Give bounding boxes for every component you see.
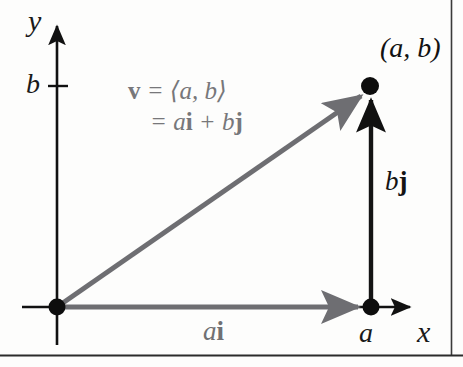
- component-bj-unit-vector: j: [399, 166, 408, 196]
- terminal-point-dot: [361, 77, 379, 95]
- x-axis-label: x: [417, 317, 430, 347]
- component-ai-unit-vector: i: [217, 316, 225, 346]
- unit-vector-j: j: [234, 108, 242, 135]
- component-ai-scalar: a: [203, 316, 217, 346]
- foot-point-dot: [363, 299, 380, 316]
- unit-vector-i: i: [186, 108, 193, 135]
- y-axis: [48, 26, 68, 345]
- terminal-point-label: (a, b): [380, 34, 441, 62]
- vector-expression-line-2: = ai + bj: [128, 109, 243, 134]
- vector-expression-components: = ⟨a, b⟩: [141, 77, 227, 104]
- vector-symbol-v: v: [128, 77, 141, 104]
- scalar-a: a: [173, 108, 186, 135]
- vector-diagram-figure: y x b a (a, b) v = ⟨a, b⟩ = ai + bj ai b…: [0, 0, 463, 367]
- component-bj-label: bj: [385, 168, 408, 195]
- scalar-b: b: [222, 108, 235, 135]
- vector-expression-line-1: v = ⟨a, b⟩: [128, 77, 227, 104]
- y-axis-tick-label-b: b: [26, 70, 40, 98]
- component-ai-label: ai: [203, 318, 224, 345]
- x-axis-tick-label-a: a: [359, 319, 373, 347]
- equals-sign: =: [150, 108, 173, 135]
- vector-expression-label: v = ⟨a, b⟩ = ai + bj: [128, 78, 243, 134]
- component-bj-scalar: b: [385, 166, 399, 196]
- plus-sign: +: [193, 108, 222, 135]
- origin-dot: [49, 299, 66, 316]
- y-axis-label: y: [28, 6, 41, 36]
